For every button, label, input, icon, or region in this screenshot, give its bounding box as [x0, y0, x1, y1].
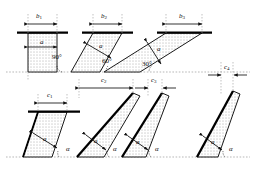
label-width-c4: c4: [224, 64, 230, 71]
label-thickness-a-4: a: [43, 136, 47, 143]
label-width-c2: c2: [101, 77, 107, 84]
label-angle-90: 90°: [52, 54, 62, 61]
label-angle-alpha-7: α: [229, 146, 233, 153]
label-width-b1: b1: [36, 13, 42, 20]
label-thickness-a-3: a: [157, 46, 161, 53]
geometry-figure: [0, 0, 256, 170]
label-angle-60: 60°: [102, 58, 112, 65]
label-thickness-a-7: a: [211, 139, 215, 146]
panel-4-shape: [23, 94, 80, 157]
label-width-c1: c1: [47, 92, 53, 99]
label-angle-alpha-6: α: [155, 146, 159, 153]
label-width-b3: b3: [179, 13, 185, 20]
panel-6-shape: [122, 79, 176, 157]
label-thickness-a-6: a: [136, 139, 140, 146]
panel-3-shape: [104, 14, 212, 72]
label-thickness-a-1: a: [40, 39, 44, 46]
label-thickness-a-5: a: [94, 138, 98, 145]
label-angle-alpha-5: α: [113, 146, 117, 153]
panel-7-shape: [197, 62, 247, 157]
label-thickness-a-2: a: [99, 43, 103, 50]
label-angle-alpha-4: α: [66, 146, 70, 153]
panel-1-shape: [17, 14, 68, 80]
label-width-b2: b2: [101, 13, 107, 20]
label-width-c3: c3: [151, 77, 157, 84]
label-angle-30: 30°: [142, 61, 152, 68]
